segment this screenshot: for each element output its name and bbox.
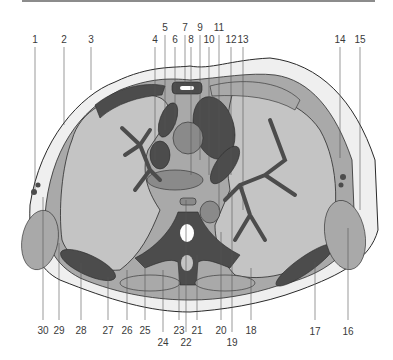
label-21: 21 bbox=[191, 326, 202, 336]
label-11: 11 bbox=[214, 23, 224, 33]
label-30: 30 bbox=[37, 326, 48, 336]
label-14: 14 bbox=[334, 35, 345, 45]
erector-spinae-right bbox=[195, 275, 255, 291]
axillary-node-left bbox=[31, 189, 37, 195]
axillary-node-right bbox=[340, 174, 346, 180]
label-10: 10 bbox=[203, 35, 214, 45]
label-19: 19 bbox=[226, 338, 237, 348]
label-2: 2 bbox=[61, 35, 67, 45]
label-9: 9 bbox=[197, 23, 203, 33]
label-26: 26 bbox=[121, 326, 132, 336]
label-4: 4 bbox=[152, 35, 158, 45]
label-27: 27 bbox=[102, 326, 113, 336]
label-5: 5 bbox=[162, 23, 168, 33]
erector-spinae-left bbox=[120, 275, 180, 291]
label-23: 23 bbox=[173, 326, 184, 336]
thorax-cross-section bbox=[0, 0, 393, 360]
label-24: 24 bbox=[157, 338, 168, 348]
label-17: 17 bbox=[309, 327, 320, 337]
label-29: 29 bbox=[53, 326, 64, 336]
label-28: 28 bbox=[75, 326, 86, 336]
label-25: 25 bbox=[139, 326, 150, 336]
label-20: 20 bbox=[215, 326, 226, 336]
label-16: 16 bbox=[342, 327, 353, 337]
label-6: 6 bbox=[172, 35, 178, 45]
label-15: 15 bbox=[354, 35, 365, 45]
label-22: 22 bbox=[180, 338, 191, 348]
superior-vena-cava bbox=[150, 141, 170, 169]
label-3: 3 bbox=[88, 35, 94, 45]
label-1: 1 bbox=[32, 35, 38, 45]
label-13: 13 bbox=[237, 35, 248, 45]
esophagus bbox=[180, 198, 196, 205]
label-18: 18 bbox=[245, 326, 256, 336]
pulmonary-trunk bbox=[173, 122, 203, 154]
descending-aorta bbox=[200, 201, 220, 223]
label-8: 8 bbox=[188, 35, 194, 45]
label-7: 7 bbox=[182, 23, 188, 33]
label-12: 12 bbox=[225, 35, 236, 45]
